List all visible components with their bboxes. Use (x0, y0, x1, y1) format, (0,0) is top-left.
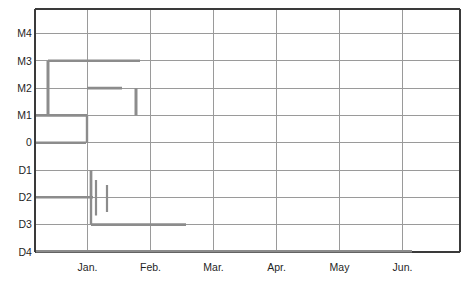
y-tick-label: M4 (4, 28, 32, 39)
y-tick-label: M3 (4, 56, 32, 67)
y-tick-label: M2 (4, 83, 32, 94)
y-tick-label: D1 (4, 165, 32, 176)
x-tick-label: Mar. (203, 262, 223, 273)
x-tick-label: May (330, 262, 350, 273)
y-tick-label: M1 (4, 110, 32, 121)
y-tick-label: D2 (4, 192, 32, 203)
x-tick-label: Apr. (267, 262, 286, 273)
axis-frame (35, 9, 460, 252)
y-axis-tick-labels: M4 M3 M2 M1 0 D1 D2 D3 D4 (0, 0, 32, 291)
chart-plot-area (0, 0, 469, 291)
highlight-segments (36, 61, 412, 252)
gridlines (35, 9, 460, 252)
y-tick-label: D4 (4, 247, 32, 258)
x-tick-label: Jun. (393, 262, 413, 273)
x-tick-label: Feb. (140, 262, 161, 273)
x-tick-label: Jan. (78, 262, 98, 273)
y-tick-label: D3 (4, 219, 32, 230)
y-tick-label: 0 (4, 137, 32, 148)
chart-figure: M4 M3 M2 M1 0 D1 D2 D3 D4 (0, 0, 469, 291)
